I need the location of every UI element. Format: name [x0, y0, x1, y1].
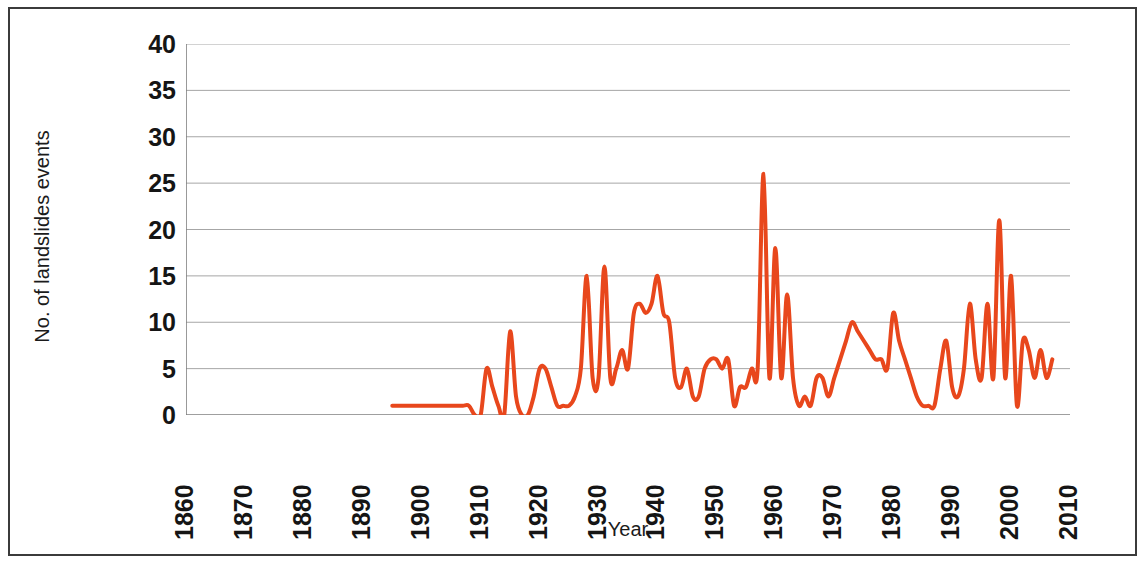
y-axis-tick-label: 35 — [120, 78, 176, 103]
landslides-events-chart-figure: No. of landslides events 403530252015105… — [0, 0, 1145, 564]
x-axis-title: Year — [186, 518, 1070, 541]
y-axis-tick-label: 30 — [120, 124, 176, 149]
y-axis-title: No. of landslides events — [31, 107, 54, 367]
chart-plot-svg — [186, 44, 1070, 415]
plot-area — [186, 44, 1070, 415]
y-axis-tick-label: 15 — [120, 263, 176, 288]
y-axis-tick-label: 5 — [120, 356, 176, 381]
y-axis-tick-label: 40 — [120, 32, 176, 57]
y-axis-tick-label: 10 — [120, 310, 176, 335]
horizontal-gridlines — [186, 44, 1070, 369]
y-axis-tick-label: 20 — [120, 217, 176, 242]
y-axis-tick-label: 25 — [120, 171, 176, 196]
landslides-series-line — [392, 174, 1052, 415]
y-axis-tick-label: 0 — [120, 403, 176, 428]
